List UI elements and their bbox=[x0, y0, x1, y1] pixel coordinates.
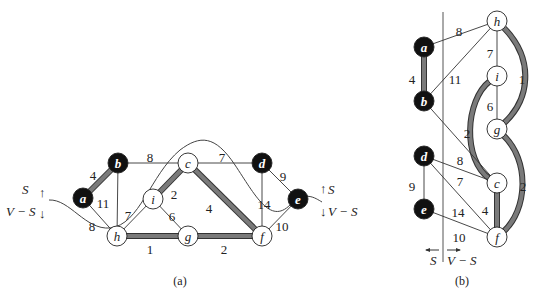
edge-weight-i-g: 6 bbox=[169, 209, 176, 224]
edge-weight-c-d: 7 bbox=[219, 150, 226, 165]
node-e: e bbox=[414, 199, 434, 219]
node-h: h bbox=[107, 226, 127, 246]
down-arrow-icon: ↓ bbox=[39, 206, 46, 221]
edge-weight-i-g: 6 bbox=[487, 99, 494, 114]
node-g: g bbox=[487, 119, 507, 139]
node-label-b: b bbox=[421, 94, 428, 109]
node-g: g bbox=[178, 226, 198, 246]
caption-a: (a) bbox=[173, 274, 186, 288]
node-c: c bbox=[178, 153, 198, 173]
panel-a: abcdeihgf 48798112476121410 S ↑ V − S ↓ … bbox=[6, 140, 358, 288]
node-f: f bbox=[252, 226, 272, 246]
edge-weight-b-c: 8 bbox=[147, 150, 154, 165]
node-e: e bbox=[288, 189, 308, 209]
up-arrow-icon: ↑ bbox=[39, 185, 46, 200]
cut-label-right-s: S bbox=[328, 182, 335, 197]
node-d: d bbox=[414, 146, 434, 166]
edge-weight-b-c: 8 bbox=[457, 153, 464, 168]
node-label-d: d bbox=[421, 149, 428, 164]
node-label-h: h bbox=[114, 229, 121, 244]
node-label-i: i bbox=[151, 192, 155, 207]
edge-weight-d-e: 9 bbox=[280, 169, 287, 184]
edge-weight-c-i: 2 bbox=[171, 187, 178, 202]
edge-weight-h-i: 7 bbox=[487, 46, 494, 61]
cut-label-right-vs: V − S bbox=[328, 204, 358, 219]
node-a: a bbox=[73, 188, 93, 208]
panel-b: haibgdcef 84117162879144210 S V − S (b) bbox=[409, 11, 527, 288]
edge-weight-d-f: 14 bbox=[258, 197, 272, 212]
node-a: a bbox=[414, 37, 434, 57]
node-i: i bbox=[143, 189, 163, 209]
edge-weight-d-e: 9 bbox=[409, 179, 416, 194]
divider-label-vs: V − S bbox=[447, 253, 477, 268]
node-label-c: c bbox=[494, 176, 500, 191]
edge-weight-h-g: 1 bbox=[147, 242, 154, 257]
node-label-h: h bbox=[494, 14, 501, 29]
edge-d-f bbox=[424, 156, 497, 237]
cut-label-left-s: S bbox=[22, 182, 29, 197]
edge-weight-g-f: 2 bbox=[520, 179, 527, 194]
edge-weight-g-f: 2 bbox=[221, 242, 228, 257]
node-label-d: d bbox=[259, 156, 266, 171]
caption-b: (b) bbox=[455, 274, 469, 288]
edge-weight-a-h: 8 bbox=[89, 219, 96, 234]
edge-weight-d-c: 7 bbox=[457, 174, 464, 189]
edge-weight-i-h: 7 bbox=[125, 208, 132, 223]
node-f: f bbox=[487, 227, 507, 247]
node-h: h bbox=[487, 11, 507, 31]
node-c: c bbox=[487, 173, 507, 193]
node-d: d bbox=[252, 153, 272, 173]
edge-weight-c-f: 4 bbox=[482, 203, 489, 218]
edge-weight-b-h: 11 bbox=[449, 72, 462, 87]
node-label-b: b bbox=[115, 156, 122, 171]
node-label-i: i bbox=[495, 69, 499, 84]
mst-cut-diagram: abcdeihgf 48798112476121410 S ↑ V − S ↓ … bbox=[0, 0, 553, 296]
edge-weight-a-h: 8 bbox=[456, 24, 463, 39]
node-b: b bbox=[414, 91, 434, 111]
edge-c-f bbox=[188, 163, 262, 236]
down-arrow-icon: ↓ bbox=[320, 204, 327, 219]
edge-b-h bbox=[117, 163, 118, 236]
edge-weight-i-c: 2 bbox=[464, 126, 471, 141]
left-arrow-icon bbox=[425, 248, 439, 252]
node-i: i bbox=[487, 66, 507, 86]
edge-weight-e-f: 10 bbox=[453, 230, 466, 245]
up-arrow-icon: ↑ bbox=[320, 181, 327, 196]
edge-weight-e-f: 10 bbox=[276, 219, 289, 234]
divider-label-s: S bbox=[430, 253, 437, 268]
edge-weight-a-b: 4 bbox=[90, 168, 97, 183]
node-label-e: e bbox=[421, 202, 427, 217]
node-label-c: c bbox=[185, 156, 191, 171]
edge-weight-d-f: 14 bbox=[452, 205, 466, 220]
node-label-a: a bbox=[80, 191, 87, 206]
edge-weight-h-g: 1 bbox=[519, 72, 526, 87]
node-b: b bbox=[108, 153, 128, 173]
node-label-g: g bbox=[494, 122, 501, 137]
edge-weight-c-f: 4 bbox=[206, 201, 213, 216]
cut-label-left-vs: V − S bbox=[6, 204, 36, 219]
edge-weight-a-b: 4 bbox=[409, 72, 416, 87]
node-label-e: e bbox=[295, 192, 301, 207]
right-arrow-icon bbox=[447, 248, 461, 252]
node-label-a: a bbox=[421, 40, 428, 55]
edge-weight-b-h: 11 bbox=[97, 196, 110, 211]
node-label-g: g bbox=[185, 229, 192, 244]
